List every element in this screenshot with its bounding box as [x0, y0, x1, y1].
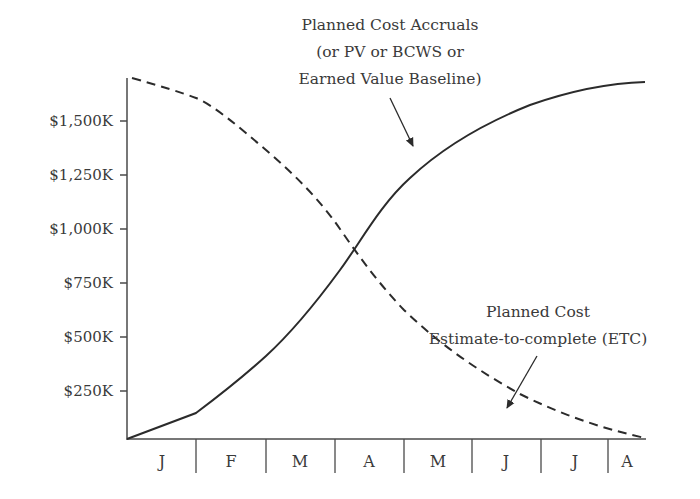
- y-tick-label: $1,000K: [49, 220, 113, 238]
- x-tick-label: A: [620, 452, 633, 471]
- x-tick-label: J: [157, 452, 165, 471]
- x-tick-label: A: [362, 452, 375, 471]
- x-tick-label: M: [292, 452, 308, 471]
- accruals-annotation: Planned Cost Accruals (or PV or BCWS or …: [299, 16, 482, 146]
- etc-arrow-icon: [507, 356, 537, 408]
- x-tick-label: J: [570, 452, 578, 471]
- etc-label-line1: Planned Cost: [486, 303, 591, 321]
- y-tick-label: $250K: [64, 382, 114, 400]
- accruals-label-line1: Planned Cost Accruals: [301, 16, 478, 34]
- x-tick-label: M: [430, 452, 446, 471]
- etc-line: [132, 78, 645, 438]
- y-tick-label: $1,500K: [49, 112, 113, 130]
- y-tick-label: $1,250K: [49, 166, 113, 184]
- planned-cost-accruals-line: [127, 82, 645, 439]
- accruals-label-line3: Earned Value Baseline): [299, 70, 482, 88]
- y-tick-label: $750K: [64, 274, 114, 292]
- etc-annotation: Planned Cost Estimate-to-complete (ETC): [429, 303, 648, 408]
- x-tick-label: F: [225, 452, 236, 471]
- accruals-arrow-icon: [390, 98, 413, 146]
- x-tick-label: J: [501, 452, 509, 471]
- chart: $1,500K $1,250K $1,000K $750K $500K $250…: [0, 0, 700, 499]
- y-tick-label: $500K: [64, 328, 114, 346]
- accruals-label-line2: (or PV or BCWS or: [316, 43, 464, 61]
- y-axis: $1,500K $1,250K $1,000K $750K $500K $250…: [49, 78, 127, 440]
- x-axis: J F M A M J J A: [127, 439, 646, 473]
- etc-label-line2: Estimate-to-complete (ETC): [429, 330, 648, 348]
